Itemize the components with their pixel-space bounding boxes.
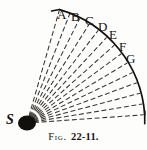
figure-caption: Fig.22-11. — [0, 131, 147, 142]
arc-label-d: D — [98, 20, 107, 33]
caption-fig-number: 22-11. — [71, 131, 99, 142]
arc-label-e: E — [109, 28, 117, 41]
arc-label-a: A — [57, 8, 66, 21]
source-label: S — [6, 113, 14, 127]
ray-line — [32, 45, 114, 118]
figure-container: ABCDEFG S Fig.22-11. — [0, 0, 147, 150]
arc-label-b: B — [71, 10, 80, 23]
caption-fig-word: Fig. — [48, 131, 67, 142]
ray-line — [29, 11, 59, 117]
ray-line — [33, 73, 132, 120]
ray-line — [31, 30, 98, 117]
point-source — [18, 116, 36, 131]
arc-label-c: C — [85, 14, 94, 27]
arc-label-g: G — [126, 52, 135, 65]
ray-line — [32, 37, 107, 118]
ray-line — [30, 19, 80, 117]
